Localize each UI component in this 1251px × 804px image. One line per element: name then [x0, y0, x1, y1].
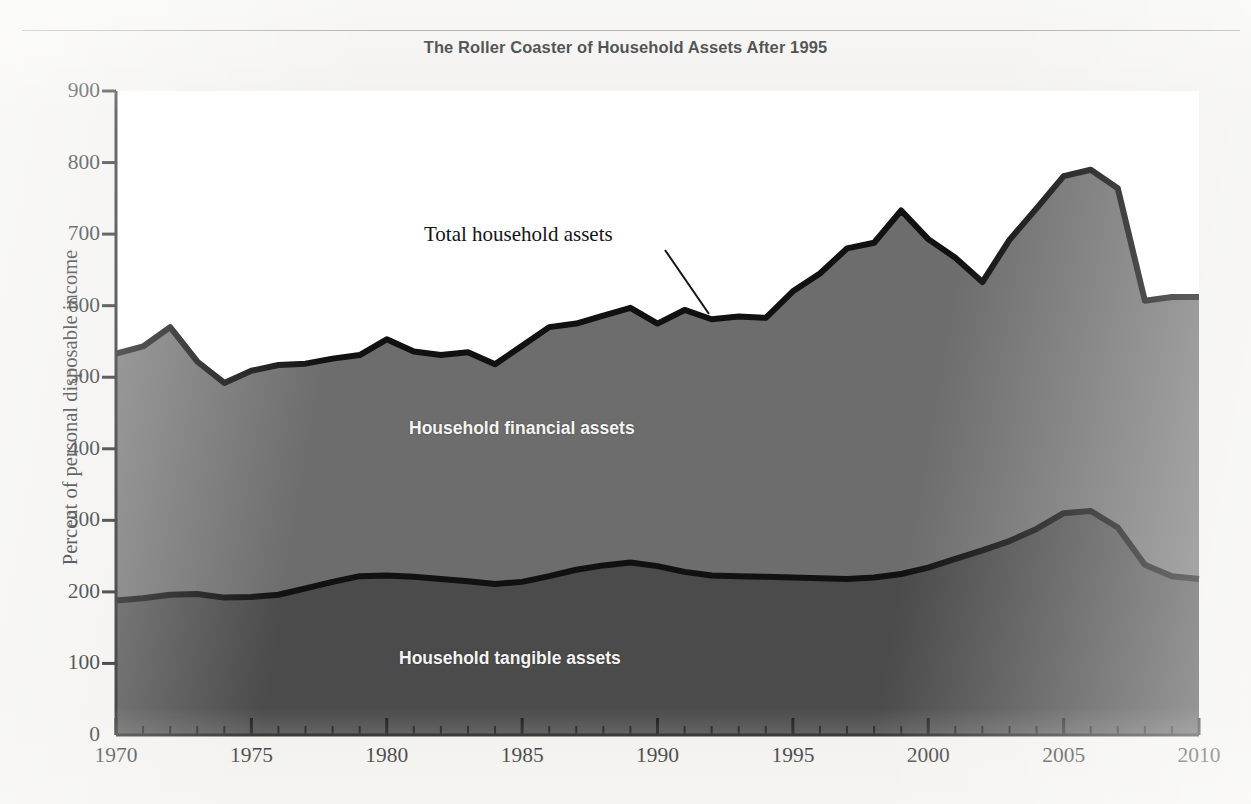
- area-label-household-tangible-assets: Household tangible assets: [399, 648, 621, 669]
- annotation-total-household-assets: Total household assets: [424, 222, 613, 247]
- area-label-household-financial-assets: Household financial assets: [409, 418, 635, 439]
- chart-figure: The Roller Coaster of Household Assets A…: [0, 0, 1251, 804]
- plot-canvas: [0, 0, 1251, 804]
